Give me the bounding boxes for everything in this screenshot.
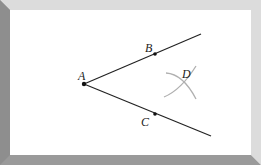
label-b: B (145, 41, 153, 55)
label-a: A (77, 69, 86, 83)
frame (0, 0, 261, 165)
label-d: D (181, 67, 191, 81)
point-c (153, 112, 157, 116)
diagram-canvas: A B C D (0, 0, 261, 165)
point-b (153, 52, 157, 56)
angle-bisector-construction: A B C D (0, 0, 261, 165)
label-c: C (141, 115, 150, 129)
